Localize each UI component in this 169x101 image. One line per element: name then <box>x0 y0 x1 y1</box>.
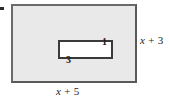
inner-rectangle-height-label: 1 <box>102 37 107 47</box>
outer-height-expression-rest: + 3 <box>145 34 163 46</box>
outer-width-expression-rest: + 5 <box>61 85 79 97</box>
inner-rectangle-width-label: 3 <box>66 55 71 65</box>
outer-rectangle-width-label: x + 5 <box>56 86 80 97</box>
nested-rectangles-diagram: 1 3 x + 3 x + 5 <box>0 0 169 101</box>
outer-rectangle-height-label: x + 3 <box>140 35 164 46</box>
corner-mark <box>0 7 4 10</box>
outer-rectangle <box>11 4 137 83</box>
